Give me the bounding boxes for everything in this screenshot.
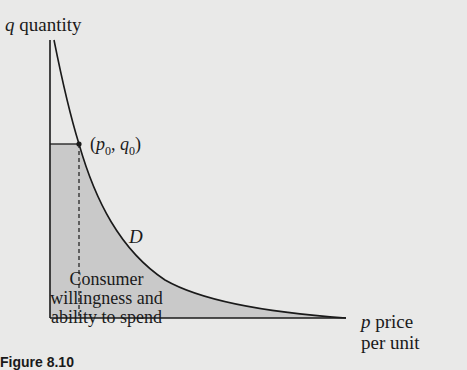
point-close-paren: ) xyxy=(135,134,141,154)
y-axis-label: q quantity xyxy=(5,14,82,35)
y-axis-text: quantity xyxy=(15,14,82,35)
x-axis-text2: per unit xyxy=(361,332,420,353)
figure-caption: Figure 8.10 xyxy=(0,354,74,370)
shaded-area-label: Consumer willingness and ability to spen… xyxy=(44,270,169,327)
equilibrium-point xyxy=(76,141,81,146)
point-q: q xyxy=(120,134,129,154)
point-p: p xyxy=(96,134,105,154)
x-axis-symbol: p xyxy=(361,311,371,332)
area-label-line2: willingness and xyxy=(44,289,169,308)
curve-label: D xyxy=(129,226,143,247)
area-label-line3: ability to spend xyxy=(44,308,169,327)
area-label-line1: Consumer xyxy=(44,270,169,289)
point-label: (p0, q0) xyxy=(90,134,141,162)
x-axis-text1: price xyxy=(371,311,414,332)
point-sep: , xyxy=(111,134,120,154)
y-axis-symbol: q xyxy=(5,14,15,35)
x-axis-label: p price per unit xyxy=(361,311,420,353)
